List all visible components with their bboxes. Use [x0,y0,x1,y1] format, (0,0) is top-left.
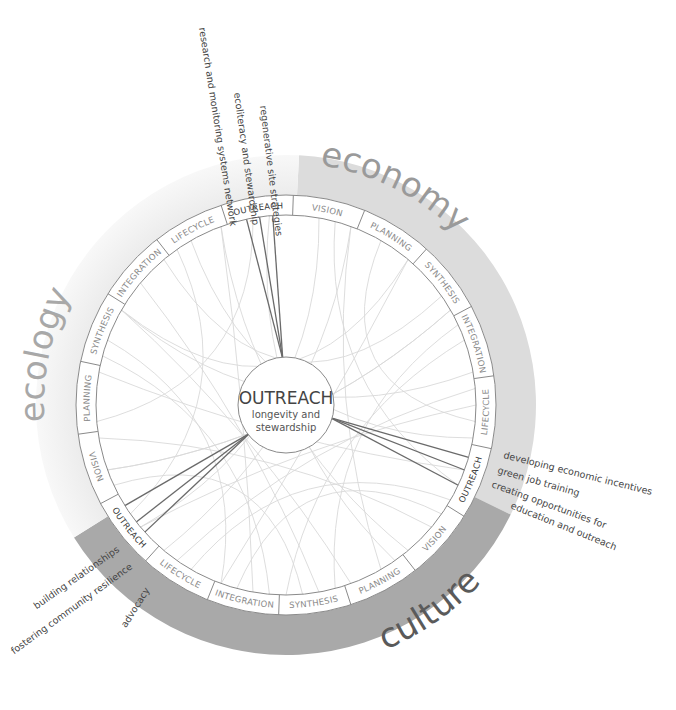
outreach-diagram: OUTREACHVISIONPLANNINGSYNTHESISINTEGRATI… [0,0,676,710]
center-subtitle-1: longevity and [252,409,320,420]
center-node[interactable]: OUTREACH longevity and stewardship [238,357,334,453]
center-subtitle-2: stewardship [256,422,317,433]
center-title: OUTREACH [239,388,334,408]
